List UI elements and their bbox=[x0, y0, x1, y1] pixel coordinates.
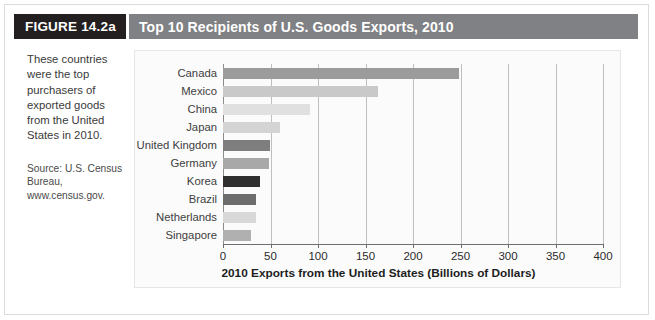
x-tick-0 bbox=[223, 244, 224, 248]
bar-korea bbox=[223, 176, 260, 187]
bar-mexico bbox=[223, 86, 378, 97]
figure-header: FIGURE 14.2a Top 10 Recipients of U.S. G… bbox=[14, 14, 638, 39]
x-tick-label-350: 350 bbox=[546, 250, 565, 262]
x-tick-400 bbox=[603, 244, 604, 248]
plot-area bbox=[223, 64, 603, 244]
gridline-250 bbox=[461, 64, 462, 244]
caption-source: Source: U.S. Census Bureau, www.census.g… bbox=[27, 162, 125, 203]
bar-singapore bbox=[223, 230, 251, 241]
caption-column: These countries were the top purchasers … bbox=[27, 52, 125, 203]
x-tick-300 bbox=[508, 244, 509, 248]
gridline-300 bbox=[508, 64, 509, 244]
bar-united-kingdom bbox=[223, 140, 270, 151]
x-tick-label-150: 150 bbox=[356, 250, 375, 262]
bar-china bbox=[223, 104, 310, 115]
figure-number-badge: FIGURE 14.2a bbox=[14, 14, 126, 39]
category-label-germany: Germany bbox=[171, 157, 217, 169]
category-label-netherlands: Netherlands bbox=[156, 211, 217, 223]
x-tick-label-250: 250 bbox=[451, 250, 470, 262]
bar-japan bbox=[223, 122, 280, 133]
gridline-200 bbox=[413, 64, 414, 244]
gridline-350 bbox=[556, 64, 557, 244]
x-tick-label-400: 400 bbox=[593, 250, 612, 262]
bar-canada bbox=[223, 68, 459, 79]
x-axis-title: 2010 Exports from the United States (Bil… bbox=[135, 266, 622, 280]
figure-container: FIGURE 14.2a Top 10 Recipients of U.S. G… bbox=[0, 0, 655, 320]
x-tick-200 bbox=[413, 244, 414, 248]
x-tick-label-100: 100 bbox=[308, 250, 327, 262]
x-tick-label-0: 0 bbox=[220, 250, 226, 262]
x-tick-150 bbox=[366, 244, 367, 248]
category-label-canada: Canada bbox=[177, 67, 217, 79]
category-label-singapore: Singapore bbox=[165, 229, 217, 241]
bar-brazil bbox=[223, 194, 256, 205]
x-tick-50 bbox=[271, 244, 272, 248]
category-label-korea: Korea bbox=[187, 175, 217, 187]
x-tick-label-300: 300 bbox=[498, 250, 517, 262]
x-tick-350 bbox=[556, 244, 557, 248]
category-axis-labels: CanadaMexicoChinaJapanUnited KingdomGerm… bbox=[135, 64, 221, 244]
bar-germany bbox=[223, 158, 269, 169]
category-label-mexico: Mexico bbox=[181, 85, 217, 97]
figure-title: Top 10 Recipients of U.S. Goods Exports,… bbox=[129, 14, 638, 39]
x-tick-100 bbox=[318, 244, 319, 248]
plot-wrapper: CanadaMexicoChinaJapanUnited KingdomGerm… bbox=[135, 51, 622, 289]
category-label-japan: Japan bbox=[186, 121, 217, 133]
category-label-united-kingdom: United Kingdom bbox=[137, 139, 217, 151]
category-label-brazil: Brazil bbox=[189, 193, 217, 205]
gridline-400 bbox=[603, 64, 604, 244]
bar-netherlands bbox=[223, 212, 256, 223]
category-label-china: China bbox=[187, 103, 217, 115]
x-tick-label-50: 50 bbox=[264, 250, 277, 262]
x-tick-250 bbox=[461, 244, 462, 248]
chart-panel: CanadaMexicoChinaJapanUnited KingdomGerm… bbox=[134, 50, 621, 288]
x-tick-label-200: 200 bbox=[403, 250, 422, 262]
caption-body: These countries were the top purchasers … bbox=[27, 52, 125, 144]
